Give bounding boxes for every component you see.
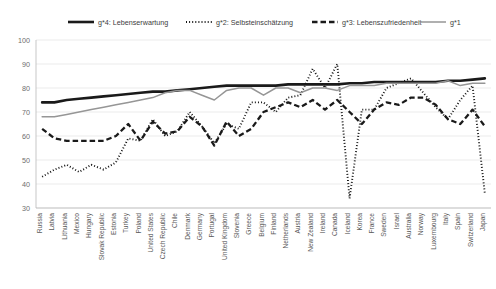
x-tick-label: Finland — [270, 213, 277, 235]
x-tick-label: Australia — [405, 213, 412, 239]
line-chart: g*4: Lebenserwartungg*2: Selbsteinschätz… — [0, 0, 496, 289]
y-tick-label: 70 — [22, 108, 30, 117]
x-tick-label: Israel — [393, 212, 400, 229]
x-tick-label: Greece — [245, 213, 252, 235]
chart-container: g*4: Lebenserwartungg*2: Selbsteinschätz… — [0, 0, 496, 289]
x-tick-label: Iceland — [344, 213, 351, 235]
x-tick-label: Germany — [196, 212, 204, 240]
x-tick-label: Italy — [442, 212, 450, 225]
x-tick-label: Lithuania — [61, 213, 68, 240]
legend-label-g2: g*2: Selbsteinschätzung — [216, 18, 293, 27]
grid-lines — [36, 40, 491, 208]
x-tick-label: Korea — [356, 213, 363, 231]
y-tick-label: 100 — [18, 36, 30, 45]
x-tick-label: Belgium — [258, 212, 266, 236]
axis-lines — [36, 40, 491, 208]
x-tick-label: Russia — [36, 213, 43, 233]
x-tick-label: Netherlands — [282, 212, 289, 248]
x-tick-label: Poland — [135, 213, 142, 234]
x-tick-label: Sweden — [380, 213, 387, 237]
x-tick-label: United Kingdom — [221, 212, 229, 259]
x-tick-label: Ireland — [319, 213, 326, 233]
x-tick-label: Japan — [479, 213, 487, 231]
x-tick-label: Denmark — [184, 212, 191, 239]
x-axis-ticks: RussiaLatviaLithuaniaMexicoHungarySlovak… — [36, 212, 487, 260]
y-tick-label: 30 — [22, 204, 30, 213]
x-tick-label: Czech Republic — [159, 212, 167, 259]
x-tick-label: Portugal — [208, 212, 216, 237]
y-tick-label: 90 — [22, 60, 30, 69]
series-line-g4 — [42, 78, 485, 102]
y-tick-label: 40 — [22, 180, 30, 189]
x-tick-label: Norway — [417, 212, 425, 235]
y-tick-label: 80 — [22, 84, 30, 93]
x-tick-label: Luxembourg — [430, 213, 438, 250]
x-tick-label: France — [368, 213, 375, 234]
chart-legend: g*4: Lebenserwartungg*2: Selbsteinschätz… — [68, 18, 461, 27]
x-tick-label: New Zealand — [307, 213, 314, 252]
x-tick-label: Spain — [454, 213, 462, 230]
x-tick-label: Canada — [331, 213, 338, 236]
x-tick-label: Estonia — [110, 213, 117, 235]
x-tick-label: Latvia — [48, 213, 55, 231]
y-tick-label: 60 — [22, 132, 30, 141]
legend-label-g4: g*4: Lebenserwartung — [98, 18, 168, 27]
series-line-g2 — [42, 64, 485, 198]
x-tick-label: Hungary — [85, 212, 93, 238]
x-tick-label: Slovak Republic — [98, 212, 106, 260]
y-tick-label: 50 — [22, 156, 30, 165]
x-tick-label: Chile — [171, 213, 178, 228]
x-tick-label: Switzerland — [467, 213, 474, 247]
x-tick-label: Austria — [294, 213, 301, 234]
series-line-g3 — [42, 98, 485, 146]
x-tick-label: Slovenia — [233, 213, 240, 239]
x-tick-label: Mexico — [73, 213, 80, 234]
legend-label-g1: g*1 — [450, 18, 461, 27]
x-tick-label: United States — [147, 212, 154, 252]
legend-label-g3: g*3: Lebenszufriedenheit — [342, 18, 422, 27]
data-series-layer — [42, 64, 485, 198]
x-tick-label: Turkey — [122, 212, 130, 233]
y-axis-ticks: 10090807060504030 — [18, 36, 30, 213]
